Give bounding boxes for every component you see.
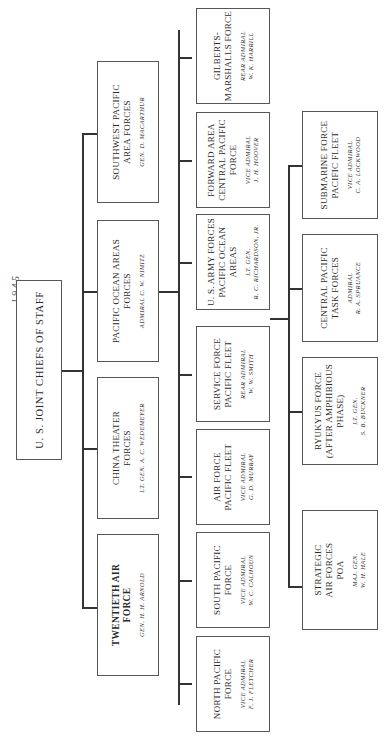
box-title-line: FORWARD AREA (206, 119, 217, 201)
connector-t3-0 (288, 165, 302, 167)
box-strategic-air-forces-poa: STRATEGIC AIR FORCES POA MAJ. GEN. W. H.… (302, 510, 378, 630)
commander-name: J. H. HOOVER (252, 119, 260, 201)
connector-poa-to-tier2 (159, 291, 179, 293)
connector-t2-1 (178, 160, 192, 162)
commander-name: LT. GEN. A. C. WEDEMEYER (138, 403, 146, 492)
box-title-line: SOUTH PACIFIC (212, 545, 223, 615)
connector-t1-3 (82, 607, 98, 609)
box-ryukyus-force: RYUKYUS FORCE (AFTER AMPHIBIOUS PHASE) L… (302, 357, 378, 465)
box-title-line: STRATEGIC (313, 543, 324, 598)
box-title-line: TWENTIETH AIR (111, 564, 122, 646)
box-title-line: FORCE (228, 119, 239, 201)
box-title-line: POA (335, 543, 346, 598)
box-title-line: SERVICE FORCE (212, 338, 223, 410)
box-title-line: FORCES (122, 403, 133, 492)
box-service-force-pacific-fleet: SERVICE FORCE PACIFIC FLEET REAR ADMIRAL… (196, 326, 270, 422)
box-title-line: PHASE) (335, 364, 346, 458)
commander-rank: VICE ADMIRAL (244, 119, 252, 201)
box-southwest-pacific-area-forces: SOUTHWEST PACIFIC AREA FORCES GEN. D. MA… (97, 61, 159, 203)
box-title-line: MARSHALLS FORCE (223, 11, 234, 101)
commander-rank: REAR ADMIRAL (239, 338, 247, 410)
commander-name: C. A. LOCKWOOD (354, 121, 362, 210)
commander-name: R. C. RICHARDSON, JR. (252, 218, 260, 306)
connector-t2-4 (178, 476, 192, 478)
box-title-line: PACIFIC OCEAN AREAS (111, 239, 122, 343)
commander-rank: LT. GEN. (351, 364, 359, 458)
box-title-line: FORCE (122, 564, 133, 646)
commander-rank: VICE ADMIRAL (346, 121, 354, 210)
commander-rank: ADMIRAL (346, 247, 354, 329)
box-gilberts-marshalls-force: GILBERTS- MARSHALLS FORCE REAR ADMIRAL W… (196, 8, 270, 104)
box-title-line: AIR FORCES (324, 543, 335, 598)
commander-name: GEN. H. H. ARNOLD (138, 564, 146, 646)
box-us-army-forces-pacific-ocean-areas: U. S. ARMY FORCES PACIFIC OCEAN AREAS LT… (196, 214, 270, 310)
connector-t2-2 (178, 262, 192, 264)
connector-t3-3 (288, 586, 302, 588)
commander-name: S. B. BUCKNER (359, 364, 367, 458)
connector-t3-1 (288, 288, 302, 290)
commander-rank: VICE ADMIRAL (239, 649, 247, 719)
commander-rank: LT. GEN. (244, 218, 252, 306)
box-central-pacific-task-forces: CENTRAL PACIFIC TASK FORCES ADMIRAL R. A… (302, 234, 378, 342)
box-title-line: SOUTHWEST PACIFIC (111, 84, 122, 179)
box-air-force-pacific-fleet: AIR FORCE PACIFIC FLEET VICE ADMIRAL G. … (196, 429, 270, 525)
box-south-pacific-force: SOUTH PACIFIC FORCE VICE ADMIRAL W. C. C… (196, 532, 270, 628)
commander-name: W. H. HALE (359, 543, 367, 598)
box-china-theater-forces: CHINA THEATER FORCES LT. GEN. A. C. WEDE… (97, 377, 159, 519)
box-title-line: FORCE (223, 545, 234, 615)
box-title-line: AIR FORCE (212, 444, 223, 511)
box-title-line: SUBMARINE FORCE (319, 121, 330, 210)
box-title-line: U. S. ARMY FORCES (206, 218, 217, 306)
connector-t2-6 (178, 683, 192, 685)
connector-tier2-to-tier3 (270, 318, 289, 320)
connector-t1-0 (82, 133, 98, 135)
box-title-line: AREA FORCES (122, 84, 133, 179)
box-title-line: FORCES (122, 239, 133, 343)
commander-rank: MAJ. GEN. (351, 543, 359, 598)
commander-name: W. W. SMITH (247, 338, 255, 410)
box-forward-area-central-pacific-force: FORWARD AREA CENTRAL PACIFIC FORCE VICE … (196, 112, 270, 208)
tier3-trunk-line (288, 165, 290, 587)
box-title-line: TASK FORCES (330, 247, 341, 329)
connector-t2-3 (178, 374, 192, 376)
tier1-trunk-line (82, 133, 84, 608)
commander-rank: VICE ADMIRAL (239, 545, 247, 615)
commander-name: R. A. SPRUANCE (354, 247, 362, 329)
box-title-line: AREAS (228, 218, 239, 306)
box-title-line: PACIFIC OCEAN (217, 218, 228, 306)
commander-name: F. J. FLETCHER (247, 649, 255, 719)
box-title-line: (AFTER AMPHIBIOUS (324, 364, 335, 458)
connector-root (62, 370, 83, 372)
connector-t3-2 (288, 411, 302, 413)
box-title-line: PACIFIC FLEET (223, 338, 234, 410)
commander-name: ADMIRAL C. W. NIMITZ (138, 239, 146, 343)
box-title-line: CENTRAL PACIFIC (217, 119, 228, 201)
box-title-line: PACIFIC FLEET (223, 444, 234, 511)
tier2-trunk-line (178, 30, 180, 705)
connector-t1-1 (82, 291, 98, 293)
connector-t2-0 (178, 57, 192, 59)
box-title-line: CENTRAL PACIFIC (319, 247, 330, 329)
commander-name: W. K. HARRILL (247, 11, 255, 101)
box-title-line: GILBERTS- (212, 11, 223, 101)
commander-name: GEN. D. MACARTHUR (138, 84, 146, 179)
box-submarine-force-pacific-fleet: SUBMARINE FORCE PACIFIC FLEET VICE ADMIR… (302, 111, 378, 219)
commander-name: W. C. CALHOUN (247, 545, 255, 615)
box-title-line: NORTH PACIFIC (212, 649, 223, 719)
box-title-line: PACIFIC FLEET (330, 121, 341, 210)
root-title: U. S. JOINT CHIEFS OF STAFF (34, 291, 45, 448)
commander-name: G. D. MURRAY (247, 444, 255, 511)
box-title-line: FORCE (223, 649, 234, 719)
connector-t2-5 (178, 580, 192, 582)
box-title-line: CHINA THEATER (111, 403, 122, 492)
box-north-pacific-force: NORTH PACIFIC FORCE VICE ADMIRAL F. J. F… (196, 636, 270, 732)
box-title-line: RYUKYUS FORCE (313, 364, 324, 458)
box-twentieth-air-force: TWENTIETH AIR FORCE GEN. H. H. ARNOLD (97, 534, 159, 676)
commander-rank: VICE ADMIRAL (239, 444, 247, 511)
box-pacific-ocean-areas-forces: PACIFIC OCEAN AREAS FORCES ADMIRAL C. W.… (97, 220, 159, 362)
connector-t1-2 (82, 448, 98, 450)
root-box-joint-chiefs: U. S. JOINT CHIEFS OF STAFF (16, 280, 62, 460)
commander-rank: REAR ADMIRAL (239, 11, 247, 101)
